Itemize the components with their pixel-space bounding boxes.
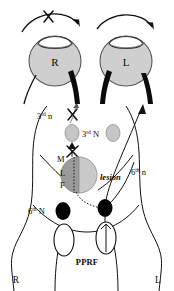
- eye-left-label: L: [123, 56, 130, 68]
- sixth-nerve-nucleus-right: [56, 202, 71, 220]
- mlf-label-l: L: [60, 168, 65, 178]
- sixth-nerve-nucleus-left: [98, 199, 113, 217]
- third-nerve-nucleus-right: [65, 125, 79, 142]
- figure-internuclear-ophthalmoplegia: R L: [0, 0, 174, 291]
- gaze-block-x-icon: [44, 11, 53, 22]
- gaze-arrow-right: [22, 14, 80, 32]
- sixth-nerve-label: 6th n: [131, 167, 147, 177]
- third-nucleus-label: 3rd N: [82, 129, 99, 139]
- lesion-shape: [61, 157, 97, 193]
- mlf-label-m: M: [57, 154, 65, 164]
- third-nerve-nucleus-left: [106, 125, 120, 142]
- pprf-label: PPRF: [76, 257, 99, 267]
- pprf-right: [54, 224, 74, 256]
- lesion-label: lesion: [100, 172, 121, 182]
- mlf-label-f: F: [60, 180, 65, 190]
- sixth-nucleus-label: 6th N: [28, 206, 45, 216]
- eye-right: [24, 36, 81, 104]
- eye-right-label: R: [51, 56, 59, 68]
- gaze-arrow-left: [97, 15, 154, 30]
- diagram-canvas: R L: [0, 0, 174, 291]
- side-label-right: R: [13, 275, 20, 285]
- eye-left: [100, 36, 153, 104]
- pprf-left: [96, 222, 116, 254]
- side-label-left: L: [155, 275, 161, 285]
- third-nerve-label: 3rd n: [37, 111, 53, 121]
